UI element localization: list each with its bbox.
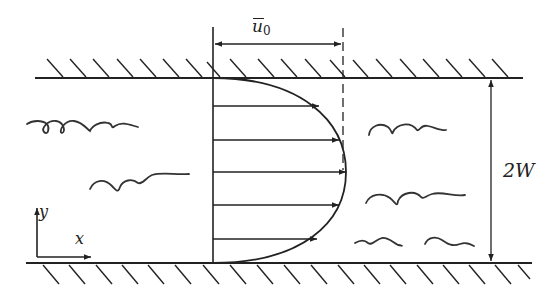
- x-axis-label: x: [75, 231, 84, 247]
- eddy-right-lower-wave-2: [425, 238, 474, 246]
- overbar: [253, 18, 264, 19]
- eddy-right-lower-wave-1: [355, 238, 402, 246]
- velocity-arrows: [213, 106, 346, 239]
- eddy-left-upper-coil: [27, 121, 138, 133]
- top-wall: [35, 59, 523, 78]
- mean-velocity-label: u0: [252, 18, 271, 37]
- channel-flow-diagram: [0, 0, 558, 296]
- eddy-right-middle-wave: [366, 193, 465, 205]
- mean-velocity-subscript: 0: [263, 24, 271, 38]
- channel-width-label: 2W: [503, 161, 535, 180]
- eddy-right-upper-wave: [369, 124, 446, 135]
- eddy-left-middle-wave: [90, 174, 189, 191]
- bottom-wall: [26, 263, 532, 284]
- y-axis-label: y: [39, 204, 48, 220]
